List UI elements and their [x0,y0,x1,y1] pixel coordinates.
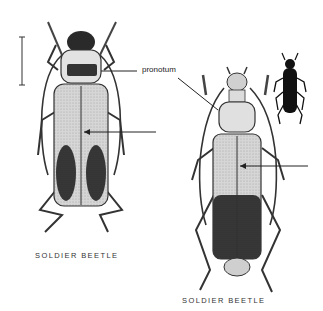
right-caption: SOLDIER BEETLE [182,296,265,305]
left-soldier-beetle [38,22,156,232]
beetle-illustration [0,0,323,311]
left-caption: SOLDIER BEETLE [35,251,118,260]
pronotum-label: pronotum [142,65,176,74]
silhouette-beetle [274,53,306,124]
scale-bar [19,37,25,85]
